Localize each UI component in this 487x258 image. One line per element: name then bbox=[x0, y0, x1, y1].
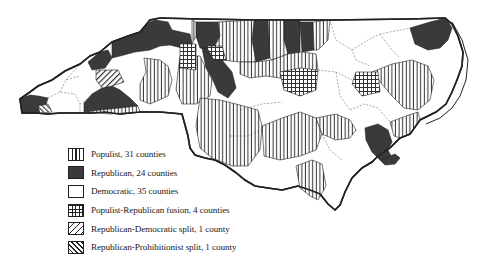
legend-label: Republican-Democratic split, 1 county bbox=[91, 224, 230, 234]
legend-label: Republican, 24 counties bbox=[91, 168, 177, 178]
legend-item-rep-proh-split: Republican-Prohibitionist split, 1 count… bbox=[68, 238, 236, 257]
map-legend: Populist, 31 counties Republican, 24 cou… bbox=[68, 145, 236, 257]
legend-item-fusion: Populist-Republican fusion, 4 counties bbox=[68, 201, 236, 220]
legend-item-republican: Republican, 24 counties bbox=[68, 164, 236, 183]
legend-label: Populist, 31 counties bbox=[91, 149, 166, 159]
legend-item-populist: Populist, 31 counties bbox=[68, 145, 236, 164]
republican-swatch-icon bbox=[68, 166, 84, 179]
legend-label: Democratic, 35 counties bbox=[91, 186, 178, 196]
legend-label: Populist-Republican fusion, 4 counties bbox=[91, 205, 230, 215]
legend-item-democratic: Democratic, 35 counties bbox=[68, 182, 236, 201]
fusion-swatch-icon bbox=[68, 204, 84, 217]
legend-label: Republican-Prohibitionist split, 1 count… bbox=[91, 242, 236, 252]
rep-dem-split-swatch-icon bbox=[68, 222, 84, 235]
legend-item-rep-dem-split: Republican-Democratic split, 1 county bbox=[68, 219, 236, 238]
democratic-swatch-icon bbox=[68, 185, 84, 198]
rep-proh-split-swatch-icon bbox=[68, 241, 84, 254]
populist-swatch-icon bbox=[68, 148, 84, 161]
